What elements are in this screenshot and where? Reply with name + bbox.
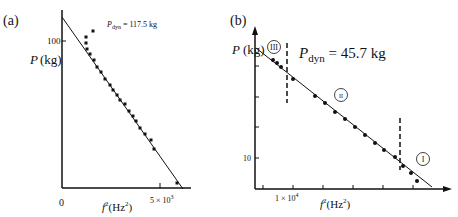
data-point <box>124 103 127 106</box>
data-point <box>409 171 413 175</box>
data-point <box>393 155 397 159</box>
y-axis-unit: (kg) <box>40 52 62 67</box>
y-tick-label: 10 <box>243 154 251 163</box>
region-i-label: I <box>422 155 425 164</box>
data-point <box>271 58 275 62</box>
data-point <box>176 182 179 185</box>
data-point <box>401 164 405 168</box>
data-point <box>128 110 131 113</box>
data-point <box>104 78 107 81</box>
data-point <box>275 61 279 65</box>
data-point <box>96 66 99 69</box>
data-point <box>132 115 135 118</box>
x-axis-arrow-icon <box>443 186 452 192</box>
data-point <box>89 53 92 56</box>
data-point <box>109 84 112 87</box>
data-point <box>116 94 119 97</box>
data-point <box>85 42 88 45</box>
x-tick-zero: 0 <box>59 197 64 208</box>
fit-line <box>62 17 183 189</box>
y-tick-label: 100 <box>47 36 61 46</box>
data-point <box>86 48 89 51</box>
x-tick-label: 1 × 104 <box>275 192 299 203</box>
data-point <box>353 125 357 129</box>
panel-b-label: (b) <box>230 13 247 29</box>
data-point <box>323 101 327 105</box>
data-points <box>85 30 179 185</box>
data-point <box>343 117 347 121</box>
x-tick-label: 5 × 103 <box>150 194 174 205</box>
x-axis-label: f2(Hz2) <box>102 200 133 214</box>
data-point <box>333 110 337 114</box>
data-point <box>291 77 295 81</box>
panel-a-label: (a) <box>3 13 19 29</box>
data-point <box>144 133 147 136</box>
data-point <box>112 89 115 92</box>
data-point <box>313 94 317 98</box>
data-point <box>150 139 153 142</box>
data-point <box>119 99 122 102</box>
y-axis-arrow-icon <box>252 26 258 35</box>
data-point <box>279 65 283 69</box>
region-ii-label: II <box>339 93 343 99</box>
region-iii-label: III <box>270 43 278 52</box>
panel-b: (b) 10 P (kg) 1 × 104 f2(Hz2) Pdyn = 45.… <box>230 13 452 211</box>
y-axis-label: P <box>231 42 240 57</box>
y-axis-unit: (kg) <box>243 42 265 57</box>
x-axis-label: f2(Hz2) <box>320 197 351 211</box>
data-point <box>135 120 138 123</box>
data-point <box>139 127 142 130</box>
data-point <box>92 30 95 33</box>
data-point <box>415 179 419 183</box>
data-point <box>382 148 386 152</box>
p-dyn-annotation: Pdyn = 117.5 kg <box>106 20 157 30</box>
p-dyn-annotation: Pdyn = 45.7 kg <box>298 45 386 64</box>
data-point <box>85 36 88 39</box>
y-axis-label: P <box>29 52 38 67</box>
data-point <box>100 71 103 74</box>
data-point <box>153 148 156 151</box>
data-point <box>373 141 377 145</box>
data-point <box>363 133 367 137</box>
data-point <box>93 59 96 62</box>
figure: (a) 100 P (kg) 0 5 × 103 f2(Hz2) Pdyn = … <box>0 0 458 217</box>
panel-a: (a) 100 P (kg) 0 5 × 103 f2(Hz2) Pdyn = … <box>3 10 191 214</box>
